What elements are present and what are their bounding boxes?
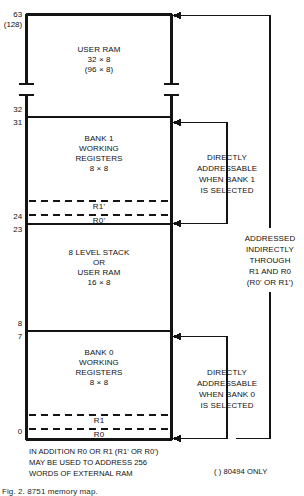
annotation-bank0-line-2: ADDRESSABLE <box>197 378 257 389</box>
annotation-indirect-line-1: ADDRESSED <box>245 233 296 244</box>
block-label-user-ram: USER RAM <box>77 46 120 54</box>
address-label-8: 8 <box>0 320 22 328</box>
footnote-line-3: WORDS OF EXTERNAL RAM <box>29 468 133 479</box>
block-label-bank-1-working: WORKING <box>79 145 119 153</box>
block-size-user-ram: 32 × 8 <box>87 56 110 64</box>
address-label-23: 23 <box>0 226 22 234</box>
annotation-bank1-line-4: IS SELECTED <box>200 185 253 196</box>
bank1-arrowhead-top <box>172 119 181 127</box>
annotation-indirect-line-2: INDIRECTLY <box>246 244 294 255</box>
block-label-stack-or: OR <box>93 259 105 267</box>
block-size-alt-user-ram: (96 × 8) <box>85 66 114 74</box>
address-label-0: 0 <box>0 428 22 436</box>
register-separators <box>29 201 169 429</box>
block-label-bank-1-name: BANK 1 <box>84 135 113 143</box>
annotation-indirect-line-4: R1 AND R0 <box>249 266 291 277</box>
address-label-24: 24 <box>0 213 22 221</box>
block-label-bank-0-registers: REGISTERS <box>75 369 122 377</box>
register-label-r0-prime: R0' <box>93 217 105 225</box>
address-label-128: (128) <box>0 21 22 29</box>
address-label-32: 32 <box>0 106 22 114</box>
indirect-arrowhead-top <box>172 12 181 20</box>
block-label-bank-1-registers: REGISTERS <box>75 155 122 163</box>
annotation-bank1-line-3: WHEN BANK 1 <box>199 174 255 185</box>
register-label-r0: R0 <box>94 431 105 439</box>
annotation-bank1-line-2: ADDRESSABLE <box>197 163 257 174</box>
scale-break-marks <box>19 84 179 95</box>
annotation-bank0-line-3: WHEN BANK 0 <box>199 389 255 400</box>
block-size-bank-0: 8 × 8 <box>90 379 109 387</box>
block-size-bank-1: 8 × 8 <box>90 165 109 173</box>
annotation-bank0-line-4: IS SELECTED <box>200 400 253 411</box>
block-label-stack-user-ram: USER RAM <box>77 269 120 277</box>
annotation-bank0-line-1: DIRECTLY <box>207 367 247 378</box>
variant-note: ( ) 80494 ONLY <box>214 468 267 476</box>
block-label-bank-0-working: WORKING <box>79 359 119 367</box>
annotation-bank1-line-1: DIRECTLY <box>207 152 247 163</box>
address-label-7: 7 <box>0 333 22 341</box>
figure-caption: Fig. 2. 8751 memory map. <box>2 488 98 496</box>
bank0-arrowhead-bottom <box>172 435 181 443</box>
block-label-bank-0-name: BANK 0 <box>84 349 113 357</box>
address-label-31: 31 <box>0 119 22 127</box>
register-label-r1: R1 <box>94 417 105 425</box>
footnote-line-1: IN ADDITION R0 OR R1 (R1' OR R0') <box>29 446 158 457</box>
address-label-63: 63 <box>0 11 22 19</box>
block-size-stack: 16 × 8 <box>87 279 110 287</box>
footnote-line-2: MAY BE USED TO ADDRESS 256 <box>29 457 147 468</box>
annotation-indirect-line-3: THROUGH <box>249 255 290 266</box>
annotation-indirect-line-5: (R0' OR R1') <box>247 277 293 288</box>
bank1-arrowhead-bottom <box>172 220 181 228</box>
bank0-arrowhead-top <box>172 333 181 341</box>
block-label-stack-levels: 8 LEVEL STACK <box>69 249 130 257</box>
register-label-r1-prime: R1' <box>93 203 105 211</box>
